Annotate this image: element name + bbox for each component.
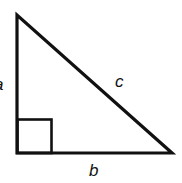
- right-angle-marker: [18, 120, 52, 154]
- triangle-outline: [17, 15, 172, 153]
- side-a-label: a: [0, 76, 3, 93]
- right-triangle: [0, 0, 182, 183]
- side-b-label: b: [89, 162, 98, 179]
- side-c-label: c: [115, 73, 124, 90]
